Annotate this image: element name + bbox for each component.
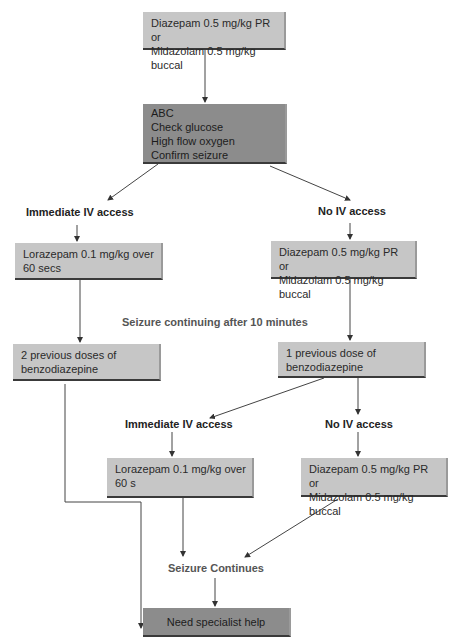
- two-doses-box: 2 previous doses of benzodiazepine: [13, 344, 161, 381]
- start-medication-box: Diazepam 0.5 mg/kg PR or Midazolam 0.5 m…: [143, 12, 286, 50]
- specialist-help-text: Need specialist help: [167, 616, 265, 628]
- branch1-diazepam-box: Diazepam 0.5 mg/kg PR or Midazolam 0.5 m…: [271, 241, 417, 279]
- one-dose-line2: benzodiazepine: [286, 360, 418, 374]
- two-doses-line2: benzodiazepine: [21, 362, 153, 376]
- branch1-lorazepam-box: Lorazepam 0.1 mg/kg over 60 secs: [15, 243, 163, 280]
- branch2-lorazepam-line1: Lorazepam 0.1 mg/kg over: [115, 462, 246, 476]
- branch2-lorazepam-box: Lorazepam 0.1 mg/kg over 60 s: [107, 458, 254, 498]
- branch1-diazepam-line2: Midazolam 0.5 mg/kg buccal: [279, 273, 409, 301]
- assessment-line-oxygen: High flow oxygen: [151, 134, 279, 148]
- assessment-line-glucose: Check glucose: [151, 120, 279, 134]
- branch2-no-iv-label: No IV access: [325, 418, 393, 430]
- assessment-box: ABC Check glucose High flow oxygen Confi…: [143, 104, 287, 164]
- start-box-line2: Midazolam 0.5 mg/kg buccal: [151, 44, 278, 72]
- branch1-iv-label: Immediate IV access: [26, 206, 134, 218]
- branch2-lorazepam-line2: 60 s: [115, 476, 246, 490]
- branch1-lorazepam-line1: Lorazepam 0.1 mg/kg over: [23, 247, 155, 261]
- branch2-diazepam-line2: Midazolam 0.5 mg/kg buccal: [309, 490, 440, 518]
- one-dose-line1: 1 previous dose of: [286, 346, 418, 360]
- one-dose-box: 1 previous dose of benzodiazepine: [278, 342, 426, 378]
- specialist-help-box: Need specialist help: [143, 608, 291, 637]
- continuation-label: Seizure continuing after 10 minutes: [122, 316, 308, 328]
- assessment-line-abc: ABC: [151, 106, 279, 120]
- start-box-line1: Diazepam 0.5 mg/kg PR or: [151, 16, 278, 44]
- branch2-diazepam-box: Diazepam 0.5 mg/kg PR or Midazolam 0.5 m…: [301, 458, 448, 497]
- branch1-no-iv-label: No IV access: [318, 205, 386, 217]
- two-doses-line1: 2 previous doses of: [21, 348, 153, 362]
- assessment-line-confirm: Confirm seizure: [151, 148, 279, 162]
- branch2-iv-label: Immediate IV access: [125, 418, 233, 430]
- seizure-continues-label: Seizure Continues: [168, 562, 264, 574]
- branch2-diazepam-line1: Diazepam 0.5 mg/kg PR or: [309, 462, 440, 490]
- branch1-diazepam-line1: Diazepam 0.5 mg/kg PR or: [279, 245, 409, 273]
- branch1-lorazepam-line2: 60 secs: [23, 261, 155, 275]
